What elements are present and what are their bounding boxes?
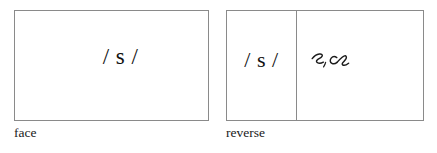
cursive-script-icon [309, 43, 371, 77]
cell-face-phoneme: / s / [15, 11, 208, 120]
card-face: / s / [14, 10, 209, 121]
cell-reverse-handwriting [297, 11, 423, 120]
cell-reverse-phoneme: / s / [227, 11, 297, 120]
card-caption-reverse: reverse [226, 126, 265, 140]
card-group-reverse: / s / [226, 10, 424, 121]
handwritten-cursive-annotation [309, 43, 371, 77]
card-caption-face: face [14, 126, 36, 140]
card-reverse: / s / [226, 10, 424, 121]
phonemic-transcription-face: / s / [103, 45, 139, 68]
phonemic-transcription-reverse: / s / [244, 49, 278, 71]
card-group-face: / s / face [14, 10, 209, 121]
figure-canvas: / s / face / s / [0, 0, 437, 153]
